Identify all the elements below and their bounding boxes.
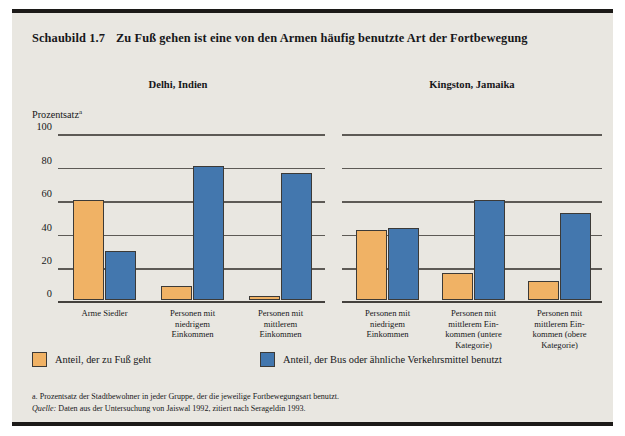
bar-group xyxy=(73,125,136,301)
bar-group xyxy=(442,125,505,301)
bar-walk xyxy=(356,230,387,300)
plot-area-kingston xyxy=(342,127,602,303)
bar-walk xyxy=(161,286,192,299)
legend-swatch-walk-icon xyxy=(32,352,47,367)
figure-title-text: Zu Fuß gehen ist eine von den Armen häuf… xyxy=(116,31,528,45)
bar-bus xyxy=(560,213,591,300)
panel-title-delhi: Delhi, Indien xyxy=(30,79,326,90)
footnote-a: a. Prozentsatz der Stadtbewohner in jede… xyxy=(32,391,597,403)
bar-bus xyxy=(474,200,505,300)
legend-item-walk: Anteil, der zu Fuß geht xyxy=(32,352,151,367)
bar-walk xyxy=(73,200,104,300)
bar-group xyxy=(356,125,419,301)
bar-walk xyxy=(442,273,473,300)
axis-baseline xyxy=(58,301,325,303)
plot-area-delhi xyxy=(58,127,325,303)
legend-swatch-bus-icon xyxy=(260,352,275,367)
legend-item-bus: Anteil, der Bus oder ähnliche Verkehrsmi… xyxy=(260,352,502,367)
y-axis-title: Prozentsatza xyxy=(32,108,82,120)
legend: Anteil, der zu Fuß geht Anteil, der Bus … xyxy=(32,352,592,368)
category-label: Arme Siedler xyxy=(57,308,152,319)
top-rule xyxy=(12,9,613,13)
figure-title: Schaubild 1.7Zu Fuß gehen ist eine von d… xyxy=(32,31,602,46)
panel-title-kingston: Kingston, Jamaika xyxy=(342,79,602,90)
bar-walk xyxy=(249,296,280,299)
bar-walk xyxy=(528,281,559,299)
bar-bus xyxy=(193,166,224,300)
footnotes: a. Prozentsatz der Stadtbewohner in jede… xyxy=(32,391,597,414)
y-tick-label-20: 20 xyxy=(42,256,52,266)
bar-bus xyxy=(388,228,419,300)
footnote-source: Quelle: Daten aus der Untersuchung von J… xyxy=(32,403,597,415)
category-label: Personen mit mittlerem Ein- kommen (ober… xyxy=(512,308,607,350)
source-label: Quelle: xyxy=(32,404,56,413)
source-text: Daten aus der Untersuchung von Jaiswal 1… xyxy=(58,404,305,413)
bar-group xyxy=(528,125,591,301)
y-tick-label-0: 0 xyxy=(47,289,52,299)
axis-baseline xyxy=(342,301,602,303)
category-label: Personen mit mittlerem Ein- kommen (unte… xyxy=(426,308,521,350)
bar-bus xyxy=(281,173,312,300)
bar-group xyxy=(249,125,312,301)
category-label: Personen mit mittlerem Einkommen xyxy=(233,308,328,340)
bottom-rule xyxy=(12,422,613,426)
category-label: Personen mit niedrigem Einkommen xyxy=(145,308,240,340)
bar-group xyxy=(161,125,224,301)
category-label: Personen mit niedrigem Einkommen xyxy=(340,308,435,340)
y-axis-ticks: 100806040200 xyxy=(12,127,56,303)
figure-panel: Schaubild 1.7Zu Fuß gehen ist eine von d… xyxy=(12,9,613,426)
figure-number: Schaubild 1.7 xyxy=(32,31,105,45)
y-tick-label-80: 80 xyxy=(42,156,52,166)
legend-label-walk: Anteil, der zu Fuß geht xyxy=(55,354,151,365)
y-tick-label-100: 100 xyxy=(36,122,52,132)
y-tick-label-60: 60 xyxy=(42,189,52,199)
y-axis-title-text: Prozentsatz xyxy=(32,109,79,120)
y-axis-footnote-marker: a xyxy=(79,108,82,116)
legend-label-bus: Anteil, der Bus oder ähnliche Verkehrsmi… xyxy=(283,354,502,365)
bar-bus xyxy=(105,251,136,299)
y-tick-label-40: 40 xyxy=(42,223,52,233)
